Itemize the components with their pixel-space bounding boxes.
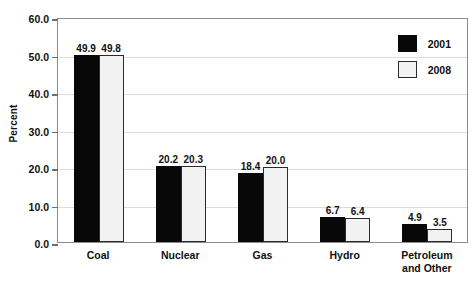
y-tick-mark — [52, 169, 58, 171]
bar-group: 4.93.5 — [402, 224, 452, 242]
y-tick-label: 50.0 — [29, 51, 49, 63]
bar-value-label: 20.0 — [266, 155, 285, 166]
bar-2001[interactable]: 6.7 — [320, 217, 345, 242]
y-tick-mark — [52, 57, 58, 59]
x-axis-label: Petroleumand Other — [372, 249, 475, 274]
bar-value-label: 49.9 — [76, 43, 95, 54]
y-tick-label: 30.0 — [29, 126, 49, 138]
bar-value-label: 49.8 — [101, 43, 120, 54]
bar-2001[interactable]: 20.2 — [156, 166, 181, 242]
legend: 2001 2008 — [398, 35, 451, 87]
plot-area: 0.010.020.030.040.050.060.0 49.949.820.2… — [57, 18, 468, 243]
legend-item-2001[interactable]: 2001 — [398, 35, 451, 52]
y-axis-title: Percent — [8, 89, 19, 159]
bar-2001[interactable]: 4.9 — [402, 224, 427, 242]
y-tick-mark — [52, 94, 58, 96]
bar-value-label: 3.5 — [433, 217, 447, 228]
bar-group: 49.949.8 — [74, 55, 124, 242]
bar-2008[interactable]: 6.4 — [345, 218, 370, 242]
bar-value-label: 20.3 — [184, 154, 203, 165]
bar-2001[interactable]: 18.4 — [238, 173, 263, 242]
bar-2008[interactable]: 3.5 — [427, 229, 452, 242]
bar-group: 6.76.4 — [320, 217, 370, 242]
legend-label-2001: 2001 — [428, 38, 451, 50]
legend-label-2008: 2008 — [428, 64, 451, 76]
y-tick-mark — [52, 132, 58, 134]
bar-value-label: 6.4 — [351, 206, 365, 217]
bar-group: 20.220.3 — [156, 166, 206, 242]
y-tick-label: 10.0 — [29, 201, 49, 213]
y-tick-label: 20.0 — [29, 163, 49, 175]
y-tick-label: 60.0 — [29, 13, 49, 25]
bar-2008[interactable]: 20.0 — [263, 167, 288, 242]
legend-swatch-2008 — [398, 61, 417, 78]
legend-item-2008[interactable]: 2008 — [398, 61, 451, 78]
y-tick-mark — [52, 244, 58, 246]
bar-value-label: 4.9 — [408, 212, 422, 223]
y-tick-mark — [52, 207, 58, 209]
bar-value-label: 20.2 — [159, 154, 178, 165]
legend-swatch-2001 — [398, 35, 417, 52]
bar-2008[interactable]: 20.3 — [181, 166, 206, 242]
bar-2001[interactable]: 49.9 — [74, 55, 99, 242]
bar-value-label: 18.4 — [241, 161, 260, 172]
bar-group: 18.420.0 — [238, 167, 288, 242]
bar-2008[interactable]: 49.8 — [99, 55, 124, 242]
bar-value-label: 6.7 — [326, 205, 340, 216]
bar-chart: Percent 0.010.020.030.040.050.060.0 49.9… — [0, 0, 475, 281]
y-tick-mark — [52, 19, 58, 21]
y-tick-label: 40.0 — [29, 88, 49, 100]
